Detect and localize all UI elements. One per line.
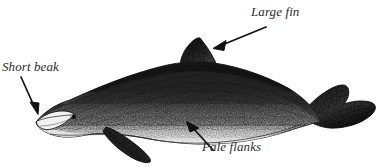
arrow-large-fin [213,27,266,51]
dolphin-drawing [0,0,385,167]
eye [72,115,76,119]
arrow-short-beak [21,77,39,115]
label-pale-flanks: Pale flanks [202,140,261,153]
dolphin-illustration: Large fin Short beak Pale flanks [0,0,385,167]
dolphin-body [26,62,328,150]
label-large-fin: Large fin [251,5,299,18]
label-short-beak: Short beak [2,60,59,73]
